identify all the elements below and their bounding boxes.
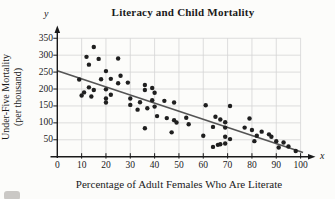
data-point bbox=[150, 98, 154, 102]
data-point bbox=[128, 96, 132, 100]
y-tick-label: 100 bbox=[26, 117, 53, 127]
x-axis-symbol: x bbox=[320, 150, 324, 161]
data-point bbox=[87, 85, 91, 89]
data-point bbox=[128, 103, 132, 107]
x-axis-label: Percentage of Adult Females Who Are Lite… bbox=[40, 178, 318, 190]
y-axis-arrow-icon bbox=[55, 26, 61, 34]
data-point bbox=[145, 106, 149, 110]
data-point bbox=[242, 125, 246, 129]
data-point bbox=[109, 77, 113, 81]
data-point bbox=[294, 149, 298, 153]
data-point bbox=[87, 62, 91, 66]
data-point bbox=[143, 83, 147, 87]
data-point bbox=[126, 80, 130, 84]
data-point bbox=[99, 77, 103, 81]
data-point bbox=[286, 144, 290, 148]
data-point bbox=[143, 126, 147, 130]
x-tick-label: 80 bbox=[241, 160, 263, 170]
page-corner-artifact bbox=[4, 191, 20, 199]
x-tick-label: 20 bbox=[95, 160, 117, 170]
x-tick-label: 40 bbox=[144, 160, 166, 170]
data-point bbox=[274, 139, 278, 143]
data-point bbox=[218, 142, 222, 146]
y-axis-label-line2: (per thousand) bbox=[12, 27, 24, 167]
x-tick-label: 0 bbox=[46, 160, 68, 170]
data-point bbox=[172, 100, 176, 104]
data-point bbox=[109, 93, 113, 97]
data-point bbox=[169, 130, 173, 134]
data-point bbox=[213, 115, 217, 119]
x-tick-label: 90 bbox=[265, 160, 287, 170]
data-point bbox=[184, 116, 188, 120]
data-point bbox=[104, 69, 108, 73]
data-point bbox=[143, 88, 147, 92]
data-point bbox=[277, 145, 281, 149]
data-point bbox=[116, 56, 120, 60]
y-axis-symbol: y bbox=[44, 8, 48, 19]
x-tick-label: 30 bbox=[119, 160, 141, 170]
data-point bbox=[174, 120, 178, 124]
data-point bbox=[135, 107, 139, 111]
x-axis-arrow-icon bbox=[308, 154, 316, 160]
data-point bbox=[92, 88, 96, 92]
data-point bbox=[186, 122, 190, 126]
data-point bbox=[96, 57, 100, 61]
data-point bbox=[228, 104, 232, 108]
data-point bbox=[255, 134, 259, 138]
data-point bbox=[92, 45, 96, 49]
y-tick-label: 350 bbox=[26, 33, 53, 43]
data-point bbox=[281, 140, 285, 144]
data-point bbox=[204, 103, 208, 107]
data-point bbox=[201, 134, 205, 138]
data-point bbox=[152, 104, 156, 108]
data-point bbox=[223, 135, 227, 139]
y-tick-label: 200 bbox=[26, 84, 53, 94]
x-tick-label: 60 bbox=[192, 160, 214, 170]
data-point bbox=[155, 114, 159, 118]
data-point bbox=[250, 128, 254, 132]
data-point bbox=[104, 100, 108, 104]
data-point bbox=[223, 120, 227, 124]
data-point bbox=[165, 116, 169, 120]
data-point bbox=[218, 117, 222, 121]
data-point bbox=[84, 55, 88, 59]
data-point bbox=[211, 125, 215, 129]
chart-title: Literacy and Child Mortality bbox=[57, 6, 309, 18]
data-point bbox=[77, 77, 81, 81]
y-tick-label: 150 bbox=[26, 100, 53, 110]
data-point bbox=[162, 99, 166, 103]
x-tick-label: 100 bbox=[290, 160, 312, 170]
y-axis-label-line1: Under-Five Mortality bbox=[0, 27, 12, 167]
data-point bbox=[211, 145, 215, 149]
x-tick-label: 70 bbox=[217, 160, 239, 170]
data-point bbox=[247, 116, 251, 120]
x-tick-label: 10 bbox=[71, 160, 93, 170]
data-point bbox=[118, 74, 122, 78]
data-point bbox=[223, 141, 227, 145]
y-tick-label: 300 bbox=[26, 50, 53, 60]
literacy-mortality-figure: Literacy and Child Mortality Under-Five … bbox=[0, 0, 335, 199]
data-point bbox=[104, 96, 108, 100]
x-tick-label: 50 bbox=[168, 160, 190, 170]
data-point bbox=[223, 125, 227, 129]
data-point bbox=[104, 87, 108, 91]
data-point bbox=[259, 129, 263, 133]
data-point bbox=[89, 94, 93, 98]
data-point bbox=[138, 100, 142, 104]
y-tick-label: 250 bbox=[26, 67, 53, 77]
data-point bbox=[150, 86, 154, 90]
y-axis-label: Under-Five Mortality (per thousand) bbox=[0, 27, 26, 167]
data-point bbox=[228, 137, 232, 141]
data-point bbox=[79, 93, 83, 97]
data-point bbox=[116, 81, 120, 85]
data-point bbox=[269, 135, 273, 139]
y-tick-label: 50 bbox=[26, 134, 53, 144]
data-point bbox=[152, 91, 156, 95]
data-point bbox=[252, 139, 256, 143]
